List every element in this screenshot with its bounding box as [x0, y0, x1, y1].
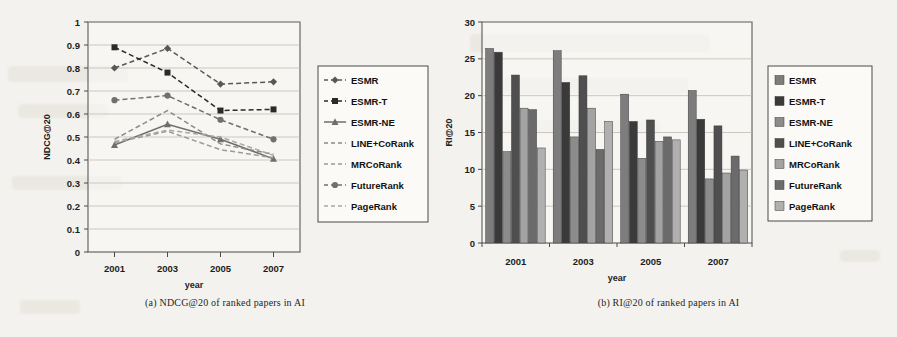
- y-tick-label: 0.7: [67, 86, 80, 97]
- x-tick-label: 2001: [104, 263, 126, 274]
- legend-label: FutureRank: [789, 180, 843, 191]
- legend-label: MRCoRank: [789, 159, 840, 170]
- y-tick-label: 0.6: [67, 109, 80, 120]
- y-tick-label: 5: [470, 201, 476, 212]
- y-tick-label: 0.2: [67, 201, 80, 212]
- bar: [723, 173, 731, 243]
- panel-b-ri: 0510152025302001200320052007yearRI@20ESM…: [440, 0, 897, 337]
- legend-label: ESMR-T: [351, 96, 388, 107]
- legend-swatch: [775, 118, 784, 127]
- bar: [664, 137, 672, 243]
- legend-label: MRCoRank: [351, 159, 402, 170]
- bar: [629, 121, 637, 243]
- bar: [646, 120, 654, 243]
- bar: [562, 82, 570, 243]
- y-axis-title: NDCG@20: [42, 114, 52, 159]
- y-tick-label: 30: [464, 17, 475, 28]
- x-tick-label: 2003: [157, 263, 178, 274]
- panel-b-caption: (b) RI@20 of ranked papers in AI: [440, 297, 897, 308]
- legend-swatch: [775, 160, 784, 169]
- legend-item-esmr-ne[interactable]: ESMR-NE: [775, 117, 833, 128]
- bar: [672, 140, 680, 243]
- series-marker: [217, 117, 223, 123]
- panel-a-caption: (a) NDCG@20 of ranked papers in AI: [0, 297, 450, 308]
- legend-label: ESMR: [789, 75, 817, 86]
- legend-label: PageRank: [351, 201, 398, 212]
- legend-label: ESMR-NE: [789, 117, 833, 128]
- legend-label: FutureRank: [351, 180, 405, 191]
- x-tick-label: 2007: [708, 256, 729, 267]
- y-tick-label: 25: [464, 53, 475, 64]
- y-tick-label: 0.4: [67, 155, 81, 166]
- x-axis-title: year: [608, 273, 627, 283]
- bar: [494, 52, 502, 243]
- legend-label: PageRank: [789, 201, 836, 212]
- series-marker: [112, 44, 118, 50]
- bar: [655, 141, 663, 243]
- bar: [503, 152, 511, 243]
- bar: [520, 108, 528, 243]
- bar: [705, 179, 713, 243]
- bar: [596, 149, 604, 243]
- bar: [486, 49, 494, 243]
- series-marker: [332, 98, 338, 104]
- figure-container: 00.10.20.30.40.50.60.70.80.9120012003200…: [0, 0, 897, 337]
- bar: [579, 76, 587, 243]
- legend-label: ESMR-T: [789, 96, 826, 107]
- y-tick-label: 0: [75, 247, 80, 258]
- x-tick-label: 2001: [505, 256, 527, 267]
- legend-swatch: [775, 202, 784, 211]
- legend-swatch: [775, 76, 784, 85]
- series-marker: [165, 70, 171, 76]
- y-tick-label: 0.3: [67, 178, 80, 189]
- bar: [740, 170, 748, 243]
- y-tick-label: 0.5: [67, 132, 81, 143]
- bar: [529, 110, 537, 243]
- bar: [714, 126, 722, 243]
- y-axis-title: RI@20: [444, 119, 454, 147]
- y-tick-label: 15: [464, 127, 475, 138]
- bar: [553, 51, 561, 243]
- legend-label: LINE+CoRank: [351, 138, 415, 149]
- series-marker: [270, 136, 276, 142]
- x-tick-label: 2007: [263, 263, 284, 274]
- panel-a-ndcg: 00.10.20.30.40.50.60.70.80.9120012003200…: [0, 0, 450, 337]
- bar: [697, 119, 705, 243]
- bar: [731, 156, 739, 243]
- x-axis-title: year: [185, 280, 204, 290]
- legend-label: ESMR-NE: [351, 117, 395, 128]
- legend-swatch: [775, 139, 784, 148]
- bar: [588, 108, 596, 243]
- x-tick-label: 2005: [640, 256, 662, 267]
- y-tick-label: 20: [464, 90, 475, 101]
- series-marker: [271, 106, 277, 112]
- y-tick-label: 0.8: [67, 63, 80, 74]
- series-marker: [111, 97, 117, 103]
- bar: [511, 75, 519, 243]
- x-tick-label: 2003: [573, 256, 594, 267]
- legend-swatch: [775, 181, 784, 190]
- legend-label: ESMR: [351, 75, 379, 86]
- legend-item-esmr-t[interactable]: ESMR-T: [775, 96, 826, 107]
- legend-item-pagerank[interactable]: PageRank: [775, 201, 836, 212]
- legend-label: LINE+CoRank: [789, 138, 853, 149]
- ndcg-line-chart: 00.10.20.30.40.50.60.70.80.9120012003200…: [0, 0, 450, 300]
- bar: [638, 158, 646, 243]
- ri-bar-chart: 0510152025302001200320052007yearRI@20ESM…: [440, 0, 897, 300]
- y-tick-label: 0.9: [67, 40, 80, 51]
- legend-item-esmr[interactable]: ESMR: [775, 75, 817, 86]
- bar: [537, 148, 545, 243]
- y-tick-label: 0: [470, 238, 475, 249]
- series-marker: [332, 182, 338, 188]
- bar: [605, 121, 613, 243]
- y-tick-label: 1: [75, 17, 81, 28]
- bar: [621, 94, 629, 243]
- y-tick-label: 10: [464, 164, 475, 175]
- series-marker: [218, 108, 224, 114]
- bar: [688, 91, 696, 243]
- x-tick-label: 2005: [210, 263, 232, 274]
- legend-swatch: [775, 97, 784, 106]
- series-marker: [164, 93, 170, 99]
- y-tick-label: 0.1: [67, 224, 81, 235]
- bar: [570, 137, 578, 243]
